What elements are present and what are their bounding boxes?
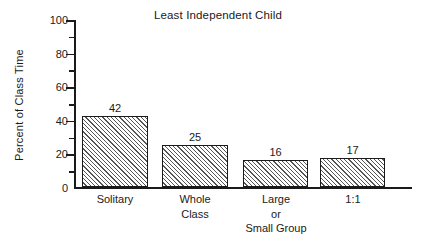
- bar-whole-class[interactable]: [162, 145, 228, 187]
- x-label-solitary-line-1: Solitary: [74, 192, 156, 207]
- y-tick-minor-30: [69, 138, 74, 140]
- x-axis-line: [74, 187, 412, 189]
- plot-area: 100 80 60 40 20 0 42 25 16 17: [74, 20, 412, 188]
- y-tick-major-100: [66, 20, 74, 22]
- x-axis-category-labels: Solitary Whole Class Large or Small Grou…: [74, 192, 412, 246]
- x-label-whole-class: Whole Class: [154, 192, 236, 221]
- bar-value-one-to-one: 17: [320, 145, 385, 156]
- y-tick-major-80: [66, 54, 74, 56]
- bar-value-large-or-small-group: 16: [243, 147, 308, 158]
- y-tick-label-40: 40: [38, 116, 68, 127]
- bar-chart: Least Independent Child Percent of Class…: [0, 0, 436, 246]
- y-tick-minor-50: [69, 104, 74, 106]
- y-tick-major-40: [66, 121, 74, 123]
- y-tick-major-60: [66, 87, 74, 89]
- y-tick-label-20: 20: [38, 149, 68, 160]
- x-label-large-or-small-group: Large or Small Group: [234, 192, 318, 236]
- x-label-whole-class-line-2: Class: [154, 207, 236, 222]
- y-axis-label-text: Percent of Class Time: [13, 49, 25, 161]
- x-label-whole-class-line-1: Whole: [154, 192, 236, 207]
- y-tick-minor-90: [69, 37, 74, 39]
- bar-one-to-one[interactable]: [320, 158, 385, 187]
- y-tick-label-100: 100: [38, 15, 68, 26]
- x-label-solitary: Solitary: [74, 192, 156, 207]
- x-label-large-or-small-group-line-3: Small Group: [234, 221, 318, 236]
- bar-value-whole-class: 25: [162, 132, 228, 143]
- x-label-one-to-one: 1:1: [312, 192, 394, 207]
- x-label-large-or-small-group-line-1: Large: [234, 192, 318, 207]
- y-axis-line: [74, 20, 76, 189]
- x-label-one-to-one-line-1: 1:1: [312, 192, 394, 207]
- y-tick-label-0: 0: [38, 183, 68, 194]
- bar-value-solitary: 42: [82, 103, 148, 114]
- bar-solitary[interactable]: [82, 116, 148, 187]
- y-tick-minor-10: [69, 171, 74, 173]
- y-axis-tick-labels: 100 80 60 40 20 0: [32, 20, 68, 188]
- x-label-large-or-small-group-line-2: or: [234, 207, 318, 222]
- y-axis-label: Percent of Class Time: [10, 20, 28, 190]
- y-tick-major-20: [66, 154, 74, 156]
- bar-large-or-small-group[interactable]: [243, 160, 308, 187]
- y-tick-label-60: 60: [38, 82, 68, 93]
- y-tick-label-80: 80: [38, 49, 68, 60]
- y-tick-minor-70: [69, 70, 74, 72]
